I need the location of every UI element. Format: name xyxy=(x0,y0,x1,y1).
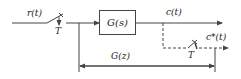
input-signal-label: r(t) xyxy=(27,9,42,18)
pulse-transfer-function-label: G(z) xyxy=(111,52,130,61)
plant-block: G(s) xyxy=(99,10,136,35)
sampled-data-system-diagram: r(t) T G(s) c(t) c*(t) T G(z) xyxy=(0,0,241,79)
output-sampler-switch-icon xyxy=(188,40,197,49)
output-signal-label: c(t) xyxy=(166,8,182,17)
input-sampler-switch-icon xyxy=(47,13,63,25)
plant-transfer-function-label: G(s) xyxy=(100,11,135,34)
input-sampler-period-label: T xyxy=(55,27,61,36)
sampled-output-signal-label: c*(t) xyxy=(206,33,226,42)
output-sampler-period-label: T xyxy=(188,51,194,60)
